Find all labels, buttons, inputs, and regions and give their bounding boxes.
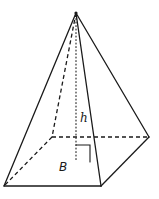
base-label: B [59,160,67,174]
height-label: h [80,111,88,125]
hidden-edge-back-left-front-left [4,137,52,186]
hidden-edge-apex-back-left [52,13,76,137]
pyramid-diagram: h B [0,0,159,199]
apex-point [74,11,77,14]
right-angle-marker [76,145,90,162]
edge-front-right-back-right [101,137,149,186]
edge-apex-front-right [76,13,101,186]
